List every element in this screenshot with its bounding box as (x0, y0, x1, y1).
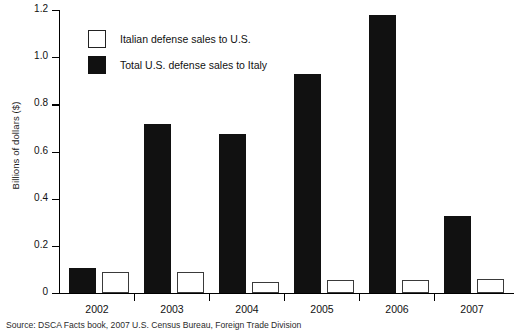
legend-label-total-us-defense-sales: Total U.S. defense sales to Italy (120, 59, 267, 71)
bar-total-us-defense-sales-2005 (294, 74, 321, 293)
bar-total-us-defense-sales-2006 (369, 15, 396, 293)
black-square-swatch-icon (88, 56, 106, 74)
bar-italian-defense-sales-2004 (252, 282, 279, 293)
x-tick-sep-1 (134, 294, 135, 301)
bar-italian-defense-sales-2002 (102, 272, 129, 293)
chart-legend: Italian defense sales to U.S. Total U.S.… (88, 26, 267, 78)
bar-italian-defense-sales-2007 (477, 279, 504, 293)
x-tick-sep-3 (284, 294, 285, 301)
legend-item-italian-defense-sales: Italian defense sales to U.S. (88, 26, 267, 52)
bar-total-us-defense-sales-2003 (144, 124, 171, 293)
x-tick-sep-2 (209, 294, 210, 301)
bar-chart-figure: Billions of dollars ($) 1.2 1.0 0.8 0.6 … (0, 0, 518, 330)
bar-total-us-defense-sales-2007 (444, 216, 471, 293)
bar-total-us-defense-sales-2004 (219, 134, 246, 293)
x-label-2006: 2006 (362, 303, 432, 315)
legend-label-italian-defense-sales: Italian defense sales to U.S. (120, 33, 251, 45)
bar-italian-defense-sales-2005 (327, 280, 354, 293)
x-tick-sep-5 (434, 294, 435, 301)
x-tick-sep-4 (359, 294, 360, 301)
white-square-swatch-icon (88, 30, 106, 48)
bar-total-us-defense-sales-2002 (69, 268, 96, 293)
legend-item-total-us-defense-sales: Total U.S. defense sales to Italy (88, 52, 267, 78)
x-label-2004: 2004 (212, 303, 282, 315)
y-tick-0: 0 (52, 293, 59, 294)
x-label-2005: 2005 (287, 303, 357, 315)
x-label-2002: 2002 (62, 303, 132, 315)
source-note: Source: DSCA Facts book, 2007 U.S. Censu… (6, 320, 301, 330)
x-label-2003: 2003 (137, 303, 207, 315)
bar-italian-defense-sales-2003 (177, 272, 204, 293)
x-label-2007: 2007 (437, 303, 507, 315)
bar-italian-defense-sales-2006 (402, 280, 429, 293)
